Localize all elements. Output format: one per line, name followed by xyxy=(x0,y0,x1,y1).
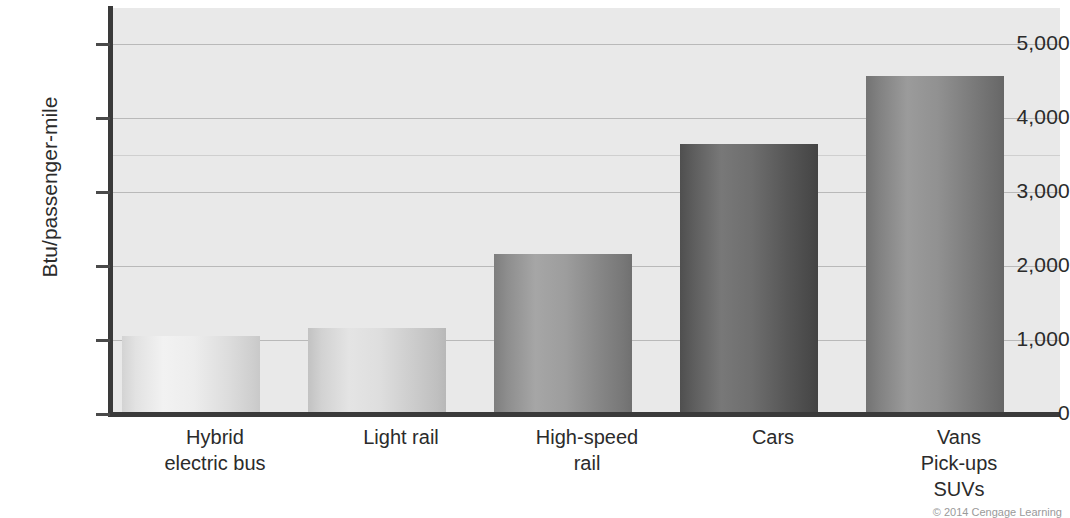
x-axis-line xyxy=(108,412,1060,417)
bar-chart-figure: 5,000 4,000 3,000 2,000 1,000 0 Btu/pass… xyxy=(0,0,1070,518)
x-category-line: electric bus xyxy=(122,450,308,476)
x-category-line: Vans xyxy=(866,424,1052,450)
y-axis-title: Btu/passenger-mile xyxy=(38,47,62,327)
y-tick-label-3000: 3,000 xyxy=(986,179,1070,203)
y-tick-0 xyxy=(96,413,110,416)
x-category-label-hybrid-electric-bus: Hybrid electric bus xyxy=(122,424,308,476)
y-tick-label-4000: 4,000 xyxy=(986,105,1070,129)
copyright-credit: © 2014 Cengage Learning xyxy=(933,506,1062,518)
bar-light-rail xyxy=(308,328,446,414)
x-category-line: SUVs xyxy=(866,476,1052,502)
x-category-label-light-rail: Light rail xyxy=(308,424,494,450)
y-tick-4000 xyxy=(96,117,110,120)
bar-vans-pickups-suvs xyxy=(866,76,1004,414)
x-category-label-vans-pickups-suvs: Vans Pick-ups SUVs xyxy=(866,424,1052,502)
y-axis-line xyxy=(108,6,113,416)
y-tick-2000 xyxy=(96,265,110,268)
bar-cars xyxy=(680,144,818,414)
bar-high-speed-rail xyxy=(494,254,632,414)
y-tick-label-0: 0 xyxy=(986,401,1070,425)
bars-layer xyxy=(112,8,1060,414)
x-category-line: Cars xyxy=(680,424,866,450)
y-tick-3000 xyxy=(96,191,110,194)
y-tick-1000 xyxy=(96,339,110,342)
x-category-line: High-speed xyxy=(494,424,680,450)
y-tick-label-1000: 1,000 xyxy=(986,327,1070,351)
bar-hybrid-electric-bus xyxy=(122,336,260,414)
x-category-line: rail xyxy=(494,450,680,476)
x-category-line: Pick-ups xyxy=(866,450,1052,476)
y-tick-5000 xyxy=(96,43,110,46)
y-tick-label-2000: 2,000 xyxy=(986,253,1070,277)
y-tick-label-5000: 5,000 xyxy=(986,31,1070,55)
x-category-line: Hybrid xyxy=(122,424,308,450)
x-category-label-high-speed-rail: High-speed rail xyxy=(494,424,680,476)
x-category-label-cars: Cars xyxy=(680,424,866,450)
x-category-line: Light rail xyxy=(308,424,494,450)
